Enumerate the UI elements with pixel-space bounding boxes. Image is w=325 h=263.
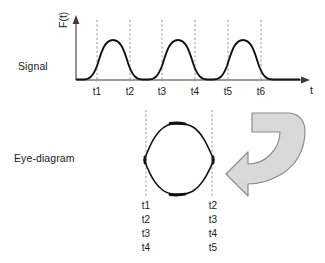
signal-axes — [73, 15, 310, 83]
eye-upper-trace — [144, 123, 214, 161]
signal-dashed-markers — [97, 20, 261, 82]
eye-top-marker — [170, 123, 185, 124]
y-axis-arrowhead — [73, 15, 80, 24]
eye-diagram-figure: Signal Eye-diagram F(t) t t1 t2 t3 t4 t5… — [0, 0, 325, 263]
x-axis-arrowhead — [301, 77, 310, 84]
eye-diagram-traces — [144, 123, 214, 195]
signal-waveform — [76, 40, 300, 80]
eye-lower-trace — [144, 159, 214, 195]
eye-bottom-marker — [170, 194, 185, 195]
figure-vector-layer — [0, 0, 325, 263]
curved-arrow-left-icon — [226, 113, 305, 196]
